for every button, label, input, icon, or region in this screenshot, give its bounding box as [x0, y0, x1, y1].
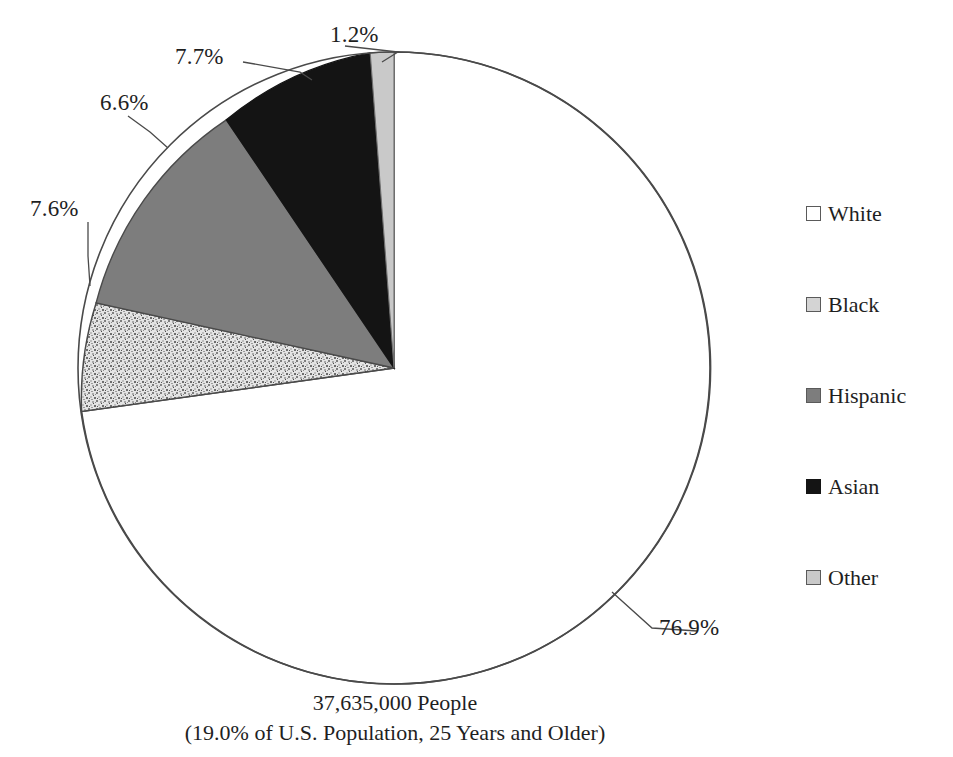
legend-item-hispanic[interactable]: Hispanic: [806, 350, 946, 441]
pie-label-white: 76.9%: [659, 615, 719, 641]
pie-chart-page: 1.2% 7.7% 6.6% 7.6% 76.9% White Black Hi…: [0, 0, 953, 757]
caption-population-note: (19.0% of U.S. Population, 25 Years and …: [0, 718, 790, 748]
leader-line-hispanic: [128, 116, 168, 148]
legend-item-black[interactable]: Black: [806, 259, 946, 350]
chart-legend: White Black Hispanic Asian Other: [806, 168, 946, 623]
legend-item-white[interactable]: White: [806, 168, 946, 259]
legend-label-white: White: [828, 201, 882, 227]
legend-swatch-white-icon: [806, 206, 821, 221]
legend-swatch-black-icon: [806, 297, 821, 312]
legend-swatch-hispanic-icon: [806, 388, 821, 403]
chart-caption: 37,635,000 People (19.0% of U.S. Populat…: [0, 688, 790, 748]
legend-label-hispanic: Hispanic: [828, 383, 906, 409]
pie-label-hispanic: 6.6%: [100, 90, 149, 116]
caption-total-people: 37,635,000 People: [0, 688, 790, 718]
pie-label-other: 1.2%: [330, 22, 379, 48]
legend-swatch-asian-icon: [806, 479, 821, 494]
legend-swatch-other-icon: [806, 570, 821, 585]
pie-label-asian: 7.7%: [175, 44, 224, 70]
leader-line-black: [88, 222, 90, 286]
legend-label-asian: Asian: [828, 474, 879, 500]
legend-item-asian[interactable]: Asian: [806, 441, 946, 532]
pie-label-black: 7.6%: [30, 196, 79, 222]
legend-label-other: Other: [828, 565, 878, 591]
legend-label-black: Black: [828, 292, 879, 318]
legend-item-other[interactable]: Other: [806, 532, 946, 623]
